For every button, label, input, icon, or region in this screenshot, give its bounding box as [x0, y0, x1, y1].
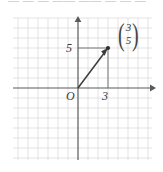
left-parenthesis: ( [118, 20, 125, 48]
vector-diagram-figure: — — — —— —— — — — [0, 0, 163, 172]
up-arrow-icon [75, 16, 82, 22]
vector-arrow [78, 46, 110, 88]
vector-component-x: 3 [126, 21, 132, 34]
y-axis-tick-label-5: 5 [66, 42, 72, 54]
vector-component-y: 5 [126, 34, 132, 47]
x-axis [13, 85, 156, 92]
right-parenthesis: ) [132, 20, 139, 48]
x-axis-tick-label-3: 3 [102, 90, 108, 102]
column-vector-label: ( 3 5 ) [116, 20, 141, 48]
right-arrow-icon [150, 85, 156, 92]
origin-label: O [66, 90, 75, 102]
vector-components: 3 5 [126, 21, 132, 47]
endpoint-dot [106, 46, 110, 50]
